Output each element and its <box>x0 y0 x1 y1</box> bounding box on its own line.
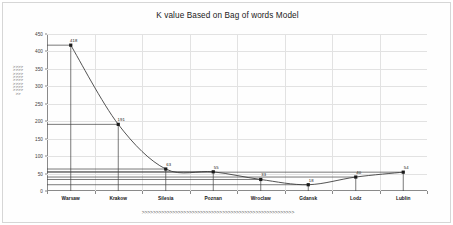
data-point-marker[interactable] <box>69 44 72 47</box>
data-point-label: 40 <box>356 170 361 175</box>
data-point-label: 18 <box>309 178 314 183</box>
data-point-marker[interactable] <box>117 123 120 126</box>
x-category-label: Krakow <box>109 196 127 201</box>
series-line <box>47 34 427 191</box>
data-point-marker[interactable] <box>307 183 310 186</box>
x-tick-mark <box>380 191 381 194</box>
y-tick-label: 50 <box>38 171 43 176</box>
series-path <box>71 45 404 185</box>
x-tick-mark <box>332 191 333 194</box>
y-tick-label: 250 <box>35 101 43 106</box>
data-point-label: 33 <box>261 172 266 177</box>
x-category-label: Lublin <box>396 196 411 201</box>
data-point-label: 191 <box>118 117 125 122</box>
data-point-marker[interactable] <box>164 167 167 170</box>
data-point-marker[interactable] <box>402 171 405 174</box>
data-point-label: 55 <box>214 165 219 170</box>
data-point-label: 54 <box>404 165 409 170</box>
y-tick-label: 150 <box>35 136 43 141</box>
chart-title: K value Based on Bag of words Model <box>3 11 452 20</box>
x-tick-mark <box>95 191 96 194</box>
y-axis-title: >>>>>>>>>>>>>>>>>>>>>>>>>>>>>>>>>> <box>12 65 24 95</box>
x-tick-mark <box>47 191 48 194</box>
x-axis-title: >>>>>>>>>>>>>>>>>>>>>>>>>>>>>>>>>>>>>>>>… <box>103 209 333 215</box>
y-tick-label: 450 <box>35 32 43 37</box>
plot-wrap: 050100150200250300350400450 WarsawKrakow… <box>47 34 427 191</box>
x-tick-mark <box>190 191 191 194</box>
data-point-marker[interactable] <box>259 178 262 181</box>
chart-card: K value Based on Bag of words Model >>>>… <box>2 2 451 223</box>
x-category-label: Gdansk <box>299 196 317 201</box>
data-point-marker[interactable] <box>354 175 357 178</box>
data-point-marker[interactable] <box>212 170 215 173</box>
x-tick-mark <box>237 191 238 194</box>
y-tick-label: 0 <box>40 189 43 194</box>
x-tick-mark <box>285 191 286 194</box>
x-category-label: Lodz <box>350 196 361 201</box>
data-point-label: 418 <box>70 38 77 43</box>
x-category-label: Silesia <box>158 196 174 201</box>
y-tick-label: 100 <box>35 154 43 159</box>
x-category-label: Wroclaw <box>251 196 271 201</box>
y-tick-label: 300 <box>35 84 43 89</box>
y-tick-label: 400 <box>35 49 43 54</box>
x-tick-mark <box>427 191 428 194</box>
x-tick-mark <box>142 191 143 194</box>
y-tick-label: 200 <box>35 119 43 124</box>
x-category-label: Warsaw <box>62 196 80 201</box>
x-category-label: Poznan <box>205 196 222 201</box>
y-tick-label: 350 <box>35 66 43 71</box>
data-point-label: 63 <box>166 162 171 167</box>
